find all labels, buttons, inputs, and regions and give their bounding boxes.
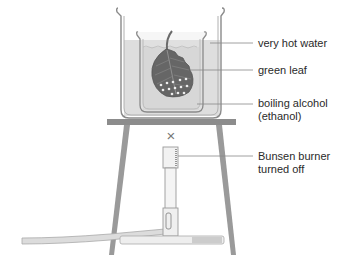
label-bunsen-burner: Bunsen burner (258, 150, 330, 162)
label-ethanol: (ethanol) (258, 110, 301, 122)
label-turned-off: turned off (258, 163, 304, 175)
label-very-hot-water: very hot water (258, 37, 327, 49)
flame-off-cross: × (167, 127, 176, 144)
label-green-leaf: green leaf (258, 64, 307, 76)
label-boiling-alcohol: boiling alcohol (258, 97, 328, 109)
